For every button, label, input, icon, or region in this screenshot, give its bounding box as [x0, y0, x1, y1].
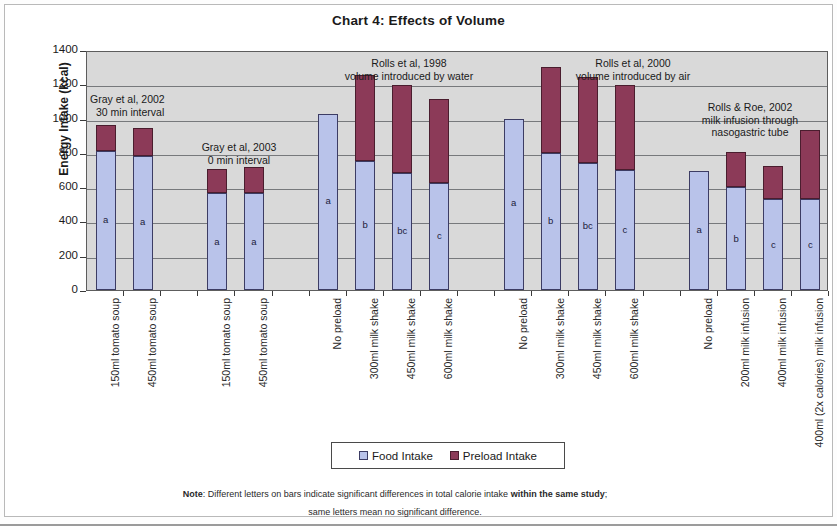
x-axis-label: 150ml tomato soup [220, 298, 232, 387]
bar-significance-letter: b [355, 219, 375, 230]
bar-column [763, 166, 783, 290]
x-tick-mark [754, 291, 755, 296]
bar-segment-preload-intake [615, 85, 635, 170]
x-tick-mark [234, 291, 235, 296]
bar-column [244, 167, 264, 290]
annotation-line: Rolls et al, 2000 [540, 57, 726, 70]
annotation-line: Gray et al, 2003 [176, 141, 302, 154]
annotation-line: Gray et al, 2002 [90, 93, 165, 106]
chart-title: Chart 4: Effects of Volume [0, 13, 837, 28]
gridline [87, 258, 827, 259]
x-axis-label: 450ml tomato soup [257, 298, 269, 387]
y-tick-label: 400 [36, 214, 78, 226]
bar-column [800, 130, 820, 290]
bar-segment-preload-intake [763, 166, 783, 199]
bar-segment-preload-intake [578, 77, 598, 164]
bar-significance-letter: c [615, 224, 635, 235]
x-axis-label: No preload [517, 298, 529, 349]
bar-significance-letter: b [726, 233, 746, 244]
note-text-a: : Different letters on bars indicate sig… [203, 489, 511, 499]
legend-label-preload: Preload Intake [463, 450, 537, 462]
y-tick-label: 600 [36, 180, 78, 192]
bar-significance-letter: a [244, 236, 264, 247]
bar-segment-preload-intake [96, 125, 116, 151]
bar-significance-letter: a [689, 224, 709, 235]
x-axis-label: 400ml (2x calories) milk infusion [813, 298, 825, 447]
note-line-2: same letters mean no significant differe… [0, 507, 790, 517]
gridline [87, 86, 827, 87]
x-tick-mark [828, 291, 829, 296]
note-prefix: Note [183, 489, 203, 499]
x-axis-label: 600ml milk shake [442, 298, 454, 379]
note-line-1: Note: Different letters on bars indicate… [0, 489, 790, 499]
annotation-gray-2003: Gray et al, 2003 0 min interval [176, 141, 302, 166]
bar-significance-letter: c [429, 230, 449, 241]
annotation-line: 0 min interval [176, 154, 302, 167]
x-axis-label: 450ml milk shake [591, 298, 603, 379]
note-emphasis: within the same study [511, 489, 605, 499]
bar-segment-preload-intake [244, 167, 264, 194]
y-tick-label: 1000 [36, 112, 78, 124]
x-axis-label: 200ml milk infusion [739, 298, 751, 387]
bar-column [355, 75, 375, 290]
x-tick-mark [568, 291, 569, 296]
chart-legend: Food Intake Preload Intake [331, 442, 565, 469]
bar-significance-letter: a [96, 214, 116, 225]
bar-column [578, 77, 598, 290]
bar-segment-preload-intake [355, 75, 375, 162]
x-tick-mark [160, 291, 161, 296]
bar-significance-letter: c [763, 239, 783, 250]
bar-segment-preload-intake [133, 128, 153, 156]
x-tick-mark [123, 291, 124, 296]
x-tick-mark [383, 291, 384, 296]
plot-area: aaaaabbccabbccabcc [86, 51, 828, 291]
x-tick-mark [643, 291, 644, 296]
y-tick-label: 1200 [36, 77, 78, 89]
x-tick-mark [309, 291, 310, 296]
annotation-line: volume introduced by air [540, 70, 726, 83]
bar-column [541, 67, 561, 290]
x-tick-mark [457, 291, 458, 296]
x-axis-label: 150ml tomato soup [109, 298, 121, 387]
y-tick-label: 0 [36, 283, 78, 295]
y-tick-mark [80, 291, 86, 292]
legend-swatch-food-icon [359, 451, 368, 460]
annotation-line: milk infusion through [672, 114, 828, 127]
x-tick-mark [346, 291, 347, 296]
y-tick-label: 200 [36, 249, 78, 261]
annotation-rolls-1998: Rolls et al, 1998 volume introduced by w… [316, 57, 502, 82]
scanned-page: Chart 4: Effects of Volume Energy Intake… [0, 0, 837, 530]
annotation-gray-2002: Gray et al, 2002 30 min interval [90, 93, 165, 118]
x-tick-mark [605, 291, 606, 296]
bar-column [429, 99, 449, 290]
annotation-line: 30 min interval [90, 106, 165, 119]
bar-significance-letter: b [541, 215, 561, 226]
annotation-rolls-2000: Rolls et al, 2000 volume introduced by a… [540, 57, 726, 82]
x-axis-label: No preload [331, 298, 343, 349]
bar-segment-preload-intake [429, 99, 449, 183]
bar-column [207, 169, 227, 290]
bar-segment-preload-intake [800, 130, 820, 199]
bar-significance-letter: a [207, 236, 227, 247]
legend-label-food: Food Intake [372, 450, 433, 462]
y-tick-label: 800 [36, 146, 78, 158]
bar-significance-letter: bc [392, 225, 412, 236]
annotation-line: Rolls & Roe, 2002 [672, 101, 828, 114]
y-tick-label: 1400 [36, 43, 78, 55]
gridline [87, 223, 827, 224]
page-bottom-rule [0, 524, 837, 526]
gridline [87, 189, 827, 190]
bar-significance-letter: a [504, 197, 524, 208]
bar-column [392, 85, 412, 290]
annotation-line: nasogastric tube [672, 126, 828, 139]
bar-significance-letter: a [133, 216, 153, 227]
x-tick-mark [494, 291, 495, 296]
x-axis-label: No preload [702, 298, 714, 349]
x-tick-mark [680, 291, 681, 296]
x-tick-mark [531, 291, 532, 296]
bar-significance-letter: a [318, 195, 338, 206]
x-tick-mark [717, 291, 718, 296]
x-axis-label: 400ml milk infusion [776, 298, 788, 387]
bar-significance-letter: c [800, 239, 820, 250]
legend-item-food-intake: Food Intake [359, 450, 433, 462]
